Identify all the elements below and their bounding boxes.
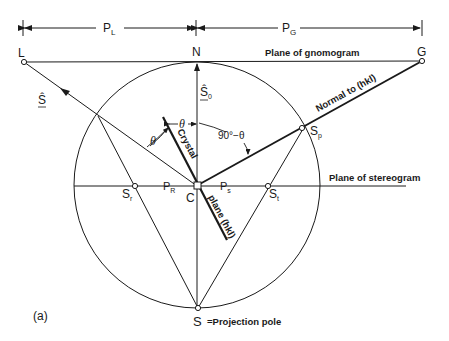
dimension-label-pl: PL bbox=[103, 21, 116, 37]
label-s-hat: Ŝ bbox=[38, 92, 46, 107]
label-sr: Sr bbox=[122, 187, 133, 202]
label-ninety-minus-theta: 90°−θ bbox=[218, 130, 245, 141]
label-projection-pole: =Projection pole bbox=[207, 316, 281, 327]
label-s0-hat: Ŝ0 bbox=[200, 84, 212, 100]
label-plane-of-stereogram: Plane of stereogram bbox=[329, 172, 420, 183]
point-sp bbox=[299, 125, 304, 130]
label-sp: Sp bbox=[310, 124, 322, 140]
point-c bbox=[194, 182, 201, 189]
label-crystal: Crystal bbox=[175, 127, 200, 161]
label-theta-left: θ bbox=[150, 134, 156, 148]
label-n: N bbox=[192, 45, 201, 59]
label-l: L bbox=[18, 46, 25, 60]
panel-label: (a) bbox=[33, 309, 48, 323]
label-g: G bbox=[417, 45, 426, 59]
plane-of-gnomogram-line bbox=[24, 61, 422, 62]
label-plane-of-gnomogram: Plane of gnomogram bbox=[265, 47, 359, 58]
dimension-label-pg: PG bbox=[282, 21, 296, 37]
label-normal-to-hkl: Normal to (hkl) bbox=[314, 72, 378, 114]
normal-to-hkl-line bbox=[198, 61, 422, 185]
s-hat-arrowhead bbox=[60, 88, 70, 96]
label-pr: PR bbox=[163, 180, 175, 194]
point-sr bbox=[132, 183, 137, 188]
label-st: St bbox=[269, 187, 279, 202]
label-ps: Ps bbox=[220, 180, 231, 194]
point-l bbox=[21, 59, 26, 64]
label-c: C bbox=[186, 191, 195, 205]
stereographic-gnomonic-projection-diagram: PL PG L N G C S =Projection pole bbox=[0, 0, 449, 341]
dimension-line bbox=[23, 20, 422, 36]
label-s: S bbox=[193, 314, 202, 329]
point-g bbox=[419, 58, 424, 63]
point-s bbox=[195, 305, 200, 310]
